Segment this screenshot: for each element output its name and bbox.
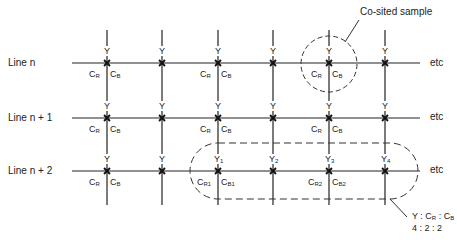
co-sited-sample-label: Co-sited sample <box>360 7 432 17</box>
sampling-grid <box>0 0 457 240</box>
luma-3-label: Y3 <box>325 155 334 164</box>
luma-label: Y <box>104 155 110 164</box>
chroma-b-label: CB <box>110 70 121 79</box>
luma-label: Y <box>270 47 276 56</box>
luma-label: Y <box>215 47 221 56</box>
luma-label: Y <box>382 102 388 111</box>
chroma-r-label: CR <box>89 125 100 134</box>
luma-label: Y <box>270 102 276 111</box>
luma-1-label: Y1 <box>214 155 223 164</box>
chroma-b-label: CB <box>221 70 232 79</box>
ratio-label-line1: Y : CR : CB <box>412 212 454 221</box>
chroma-b-label: CB <box>110 125 121 134</box>
luma-4-label: Y4 <box>381 155 390 164</box>
line-label-n-plus-2: Line n + 2 <box>8 166 52 176</box>
etc-label-n: etc <box>430 58 443 68</box>
chroma-r-label: CR <box>311 70 322 79</box>
line-label-n: Line n <box>8 58 35 68</box>
luma-2-label: Y2 <box>269 155 278 164</box>
chroma-b-label: CB <box>332 70 343 79</box>
luma-label: Y <box>215 102 221 111</box>
chroma-b-label: CB <box>221 125 232 134</box>
luma-label: Y <box>326 47 332 56</box>
luma-label: Y <box>382 47 388 56</box>
chroma-r-label: CR <box>311 125 322 134</box>
luma-label: Y <box>104 102 110 111</box>
line-label-n-plus-1: Line n + 1 <box>8 113 52 123</box>
chroma-r-label: CR <box>89 178 100 187</box>
ratio-leader <box>390 199 407 217</box>
chroma-b-label: CB <box>110 178 121 187</box>
chroma-b1-label: CB1 <box>221 178 235 187</box>
luma-label: Y <box>326 102 332 111</box>
etc-label-n-plus-1: etc <box>430 112 443 122</box>
luma-label: Y <box>159 102 165 111</box>
chroma-r-label: CR <box>200 70 211 79</box>
luma-label: Y <box>159 47 165 56</box>
chroma-r-label: CR <box>200 125 211 134</box>
etc-label-n-plus-2: etc <box>430 165 443 175</box>
chroma-b2-label: CB2 <box>332 178 346 187</box>
sample-points <box>104 60 388 174</box>
chroma-b-label: CB <box>332 125 343 134</box>
ratio-label-line2: 4 : 2 : 2 <box>412 224 442 233</box>
co-sited-leader <box>345 20 359 42</box>
luma-label: Y <box>104 47 110 56</box>
chroma-r1-label: CR1 <box>197 178 211 187</box>
chroma-r-label: CR <box>89 70 100 79</box>
chroma-r2-label: CR2 <box>308 178 322 187</box>
luma-label: Y <box>159 155 165 164</box>
